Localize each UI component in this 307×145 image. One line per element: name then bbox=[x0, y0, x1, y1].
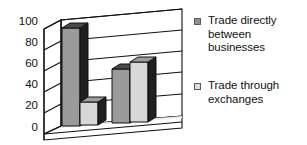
bar-group-2-series-2 bbox=[130, 57, 156, 122]
chart-legend: Trade directly between businesses Trade … bbox=[190, 0, 307, 145]
y-tick-label-100: 100 bbox=[19, 15, 38, 27]
legend-swatch-icon-series-2 bbox=[194, 83, 201, 90]
legend-label-series-1: Trade directly between businesses bbox=[208, 14, 277, 55]
chart-svg: 100 80 60 40 20 0 bbox=[0, 0, 190, 145]
legend-swatch-icon-series-1 bbox=[194, 18, 201, 25]
chart-plot-area: 100 80 60 40 20 0 bbox=[0, 0, 190, 145]
legend-item-trade-directly: Trade directly between businesses bbox=[194, 14, 277, 55]
legend-item-trade-through-exchanges: Trade through exchanges bbox=[194, 79, 279, 106]
chart-left-wall bbox=[44, 20, 61, 134]
bar-group-1-series-2 bbox=[80, 97, 106, 125]
legend-label-series-2: Trade through exchanges bbox=[208, 79, 279, 106]
y-tick-label-60: 60 bbox=[25, 57, 38, 69]
bar-chart-figure: 100 80 60 40 20 0 Trade directly between… bbox=[0, 0, 307, 145]
y-tick-label-80: 80 bbox=[25, 36, 38, 48]
y-tick-label-0: 0 bbox=[32, 121, 38, 133]
y-tick-label-40: 40 bbox=[25, 78, 38, 90]
y-tick-label-20: 20 bbox=[25, 99, 38, 111]
